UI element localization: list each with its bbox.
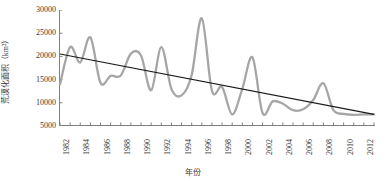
trend-line <box>60 54 374 114</box>
x-tick-label: 2002 <box>266 139 274 155</box>
x-tick-label: 2010 <box>347 139 355 155</box>
x-tick-label: 1992 <box>164 139 172 155</box>
chart-svg <box>59 10 375 126</box>
x-tick-label: 1984 <box>83 139 91 155</box>
chart-container: 荒漠化面积（km²） 50001000015000200002500030000… <box>0 0 386 181</box>
x-tick-label: 1982 <box>63 139 71 155</box>
x-axis-tick-labels: 1982198419861988199019921994199619982000… <box>0 131 386 165</box>
x-tick-label: 2008 <box>326 139 334 155</box>
x-tick-label: 1990 <box>144 139 152 155</box>
y-tick-label: 10000 <box>22 99 56 107</box>
y-axis-title: 荒漠化面积（km²） <box>0 0 13 14</box>
x-tick-label: 2012 <box>367 139 375 155</box>
y-tick-label: 25000 <box>22 29 56 37</box>
y-tick-label: 20000 <box>22 52 56 60</box>
x-tick-label: 1998 <box>225 139 233 155</box>
x-tick-label: 1994 <box>185 139 193 155</box>
plot-area <box>59 10 375 126</box>
x-tick-label: 2000 <box>245 139 253 155</box>
x-tick-label: 1988 <box>124 139 132 155</box>
x-tick-label: 1996 <box>205 139 213 155</box>
x-tick-label: 2006 <box>306 139 314 155</box>
axis-lines <box>59 10 375 126</box>
y-tick-label: 5000 <box>22 122 56 130</box>
x-tick-label: 1986 <box>104 139 112 155</box>
x-tick-label: 2004 <box>286 139 294 155</box>
y-tick-label: 15000 <box>22 76 56 84</box>
y-tick-label: 30000 <box>22 6 56 14</box>
data-series-line <box>60 18 374 115</box>
x-axis-title: 年份 <box>0 166 386 177</box>
